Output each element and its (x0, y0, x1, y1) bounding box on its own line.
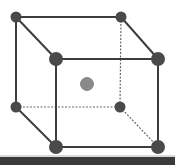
corner-atom-back-top-right (116, 12, 127, 23)
center-atom (81, 78, 94, 91)
corner-atom-back-bottom-left (11, 102, 22, 113)
bottom-divider (0, 157, 175, 165)
edge-back_bottom_left-front_bottom_left (16, 107, 56, 147)
corner-atom-back-bottom-right (115, 102, 126, 113)
edge-back_top_left-front_top_left (16, 17, 56, 59)
hidden-edge-back_bottom_right-front_bottom_right (120, 107, 158, 147)
corner-atom-back-top-left (11, 12, 22, 23)
corner-atom-front-top-left (49, 52, 63, 66)
corner-atom-front-bottom-left (49, 140, 63, 154)
cube-lattice (0, 0, 175, 165)
edge-back_top_right-front_top_right (121, 17, 158, 59)
corner-atom-front-bottom-right (151, 140, 165, 154)
hidden-edge-back_top_right-back_bottom_right (120, 17, 121, 107)
corner-atom-front-top-right (151, 52, 165, 66)
center-atom-group (81, 78, 94, 91)
